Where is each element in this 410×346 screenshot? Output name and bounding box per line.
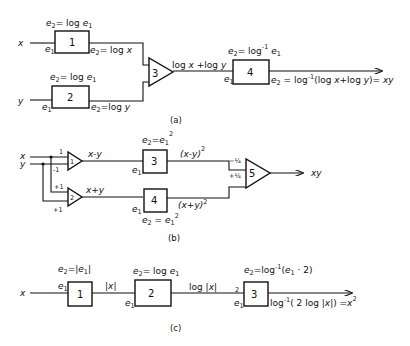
summer-3-id: 3 bbox=[152, 68, 158, 79]
block-3-id: 3 bbox=[151, 156, 157, 167]
caption-a: (a) bbox=[170, 115, 182, 125]
block-2-c-out: log |x| bbox=[189, 282, 217, 292]
block-4-b-func: e2 = e12 bbox=[142, 212, 179, 227]
block-2-c-func: e2= log e1 bbox=[133, 266, 179, 278]
diagram-a: x 1 e2= log e1 e1 e2= log x y 2 e2= log … bbox=[17, 18, 394, 125]
input-y-label-b: y bbox=[19, 159, 26, 169]
block-2-id: 2 bbox=[67, 92, 73, 103]
amp-1-gain-top: 1 bbox=[59, 148, 63, 156]
input-x-label-c: x bbox=[19, 288, 26, 298]
amp-2-gain-bottom: +1 bbox=[53, 206, 63, 214]
diagram-figure: x 1 e2= log e1 e1 e2= log x y 2 e2= log … bbox=[0, 0, 410, 346]
diagram-c: x 1 e2=|e1| e1 |x| 2 e2= log e1 e1 log |… bbox=[19, 263, 357, 333]
diagram-b: x y 1 1 -1 x-y 2 +1 +1 x+y 3 e2=e12 e1 (… bbox=[19, 130, 322, 243]
block-4-func: e2= log-1 e1 bbox=[228, 43, 281, 58]
summer-5-gain-top: −¼ bbox=[229, 157, 241, 165]
block-1-c-func: e2=|e1| bbox=[58, 264, 91, 276]
block-2-c-in: e1 bbox=[125, 298, 135, 310]
block-3-in: e1 bbox=[132, 165, 142, 177]
block-1-c-id: 1 bbox=[77, 289, 83, 300]
block-1-id: 1 bbox=[69, 37, 75, 48]
block-1-c-out: |x| bbox=[105, 281, 116, 291]
amp-2-id: 2 bbox=[70, 194, 74, 202]
block-1-in: e1 bbox=[45, 44, 55, 56]
amp-1-gain-bottom: -1 bbox=[53, 166, 59, 174]
block-4-out: e2 = log-1(log x+log y)= xy bbox=[271, 73, 394, 87]
input-x-label: x bbox=[17, 38, 24, 48]
amp-1-id: 1 bbox=[70, 158, 74, 166]
summer-3-out: log x +log y bbox=[172, 60, 227, 70]
block-2-out: e2=log y bbox=[91, 102, 131, 114]
block-3-c-id: 3 bbox=[251, 289, 257, 300]
block-2-func: e2= log e1 bbox=[50, 72, 96, 84]
amp-1-out: x-y bbox=[87, 149, 103, 159]
block-3-func: e2=e12 bbox=[142, 130, 173, 147]
caption-c: (c) bbox=[170, 323, 181, 333]
block-1-c-in: e1 bbox=[58, 281, 68, 293]
block-3-c-func: e2=log-1(e1 · 2) bbox=[244, 263, 312, 277]
block-3-c-out: log-1( 2 log |x|) =x2 bbox=[270, 295, 357, 308]
summer-5-out: xy bbox=[310, 168, 322, 178]
block-3-out: (x-y)2 bbox=[180, 145, 205, 159]
caption-b: (b) bbox=[168, 233, 180, 243]
block-3-c-in-top: 2 bbox=[235, 286, 239, 294]
summer-5-id: 5 bbox=[249, 168, 255, 179]
block-2-c-id: 2 bbox=[148, 288, 154, 299]
input-y-label: y bbox=[17, 96, 24, 106]
block-3-c-in: e1 bbox=[234, 298, 244, 310]
summer-5-gain-bottom: +¼ bbox=[229, 172, 241, 180]
block-2-in: e1 bbox=[42, 102, 52, 114]
block-1-out: e2= log x bbox=[90, 45, 133, 57]
block-4-b-in: e1 bbox=[132, 204, 142, 216]
block-4-b-id: 4 bbox=[151, 195, 157, 206]
block-4-in: e1 bbox=[224, 74, 234, 86]
amp-2-gain-top: +1 bbox=[54, 183, 64, 191]
block-4-id: 4 bbox=[247, 67, 253, 78]
amp-2-out: x+y bbox=[85, 185, 105, 195]
block-1-func: e2= log e1 bbox=[46, 18, 92, 30]
block-4-b-out: (x+y)2 bbox=[178, 198, 207, 210]
